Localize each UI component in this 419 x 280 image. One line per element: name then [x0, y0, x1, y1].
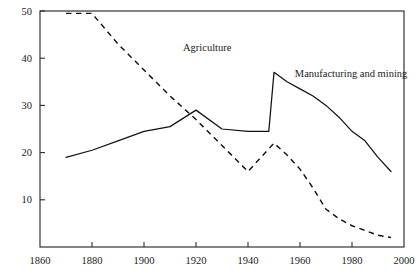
x-tick-label: 1860	[30, 255, 51, 266]
x-tick-label: 1900	[134, 255, 155, 266]
x-tick-label: 1960	[290, 255, 311, 266]
y-tick-label: 30	[22, 100, 33, 111]
series-annotations-group: AgricultureManufacturing and mining	[183, 42, 408, 79]
x-tick-label: 1920	[186, 255, 207, 266]
y-axis-tick-labels: 1020304050	[22, 6, 33, 206]
y-tick-label: 50	[22, 6, 33, 17]
y-axis-ticks	[40, 11, 45, 200]
x-tick-label: 2000	[394, 255, 415, 266]
x-axis-ticks	[92, 242, 352, 247]
x-tick-label: 1980	[342, 255, 363, 266]
x-tick-label: 1940	[238, 255, 259, 266]
series-label-agriculture: Agriculture	[183, 42, 232, 53]
y-tick-label: 20	[22, 147, 33, 158]
y-tick-label: 40	[22, 53, 33, 64]
series-line-manufacturing-and-mining	[66, 72, 391, 171]
y-tick-label: 10	[22, 194, 33, 205]
series-label-manufacturing-and-mining: Manufacturing and mining	[295, 68, 408, 79]
x-tick-label: 1880	[82, 255, 103, 266]
chart-container: 1020304050 18601880190019201940196019802…	[0, 0, 419, 280]
x-axis-tick-labels: 18601880190019201940196019802000	[30, 255, 415, 266]
line-chart: 1020304050 18601880190019201940196019802…	[0, 0, 419, 280]
